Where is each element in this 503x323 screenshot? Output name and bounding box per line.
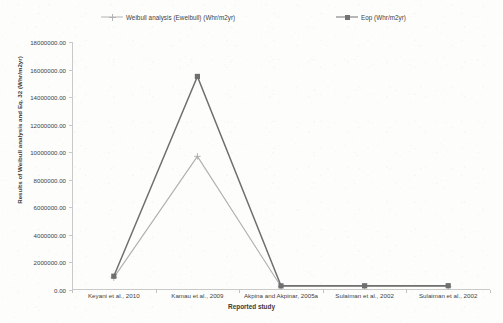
plot-area xyxy=(72,42,490,290)
series-weibull xyxy=(111,153,452,290)
y-tick-label: 2000000.00 xyxy=(34,259,66,266)
y-tick-mark xyxy=(69,125,72,126)
y-tick-mark xyxy=(69,70,72,71)
y-tick-label: 12000000.00 xyxy=(30,121,66,128)
cross-marker-icon xyxy=(101,12,123,22)
x-category-label: Kamau et al., 2009 xyxy=(171,292,223,299)
data-point-marker xyxy=(194,153,200,159)
y-tick-label: 18000000.00 xyxy=(30,39,66,46)
y-tick-mark xyxy=(69,235,72,236)
y-tick-mark xyxy=(69,97,72,98)
y-tick-mark xyxy=(69,42,72,43)
y-tick-mark xyxy=(69,207,72,208)
y-tick-label: 0.00 xyxy=(54,287,66,294)
x-tick-mark xyxy=(490,290,491,293)
y-tick-label: 4000000.00 xyxy=(34,231,66,238)
y-axis-tick-labels: 18000000.0016000000.0014000000.001200000… xyxy=(0,0,72,323)
chart-legend: Weibull analysis (Eweibull) (Whr/m2yr) E… xyxy=(0,12,503,26)
x-category-label: Akpina and Akpinar, 2005a xyxy=(244,292,318,299)
data-point-marker xyxy=(362,283,367,288)
series-line xyxy=(114,156,448,286)
series-line xyxy=(114,76,448,285)
legend-item-weibull[interactable]: Weibull analysis (Eweibull) (Whr/m2yr) xyxy=(101,12,235,22)
y-tick-label: 10000000.00 xyxy=(30,149,66,156)
line-chart: Weibull analysis (Eweibull) (Whr/m2yr) E… xyxy=(0,0,503,323)
y-tick-mark xyxy=(69,180,72,181)
data-point-marker xyxy=(195,74,200,79)
x-category-label: Sulaiman et al., 2002 xyxy=(419,292,478,299)
data-point-marker xyxy=(446,283,451,288)
y-tick-mark xyxy=(69,262,72,263)
square-marker-icon xyxy=(336,12,358,22)
y-tick-mark xyxy=(69,152,72,153)
y-tick-label: 16000000.00 xyxy=(30,66,66,73)
series-eop xyxy=(111,74,451,289)
x-axis-title: Reported study xyxy=(0,303,503,310)
data-point-marker xyxy=(278,283,283,288)
y-tick-label: 14000000.00 xyxy=(30,94,66,101)
legend-label-eop: Eop (Whr/m2yr) xyxy=(361,14,406,21)
legend-item-eop[interactable]: Eop (Whr/m2yr) xyxy=(336,12,406,22)
y-tick-label: 6000000.00 xyxy=(34,204,66,211)
x-category-label: Keyani et al., 2010 xyxy=(88,292,140,299)
legend-label-weibull: Weibull analysis (Eweibull) (Whr/m2yr) xyxy=(126,14,235,21)
y-tick-label: 8000000.00 xyxy=(34,176,66,183)
x-category-label: Sulaiman et al., 2002 xyxy=(335,292,394,299)
data-point-marker xyxy=(111,274,116,279)
data-series-layer xyxy=(72,42,490,290)
